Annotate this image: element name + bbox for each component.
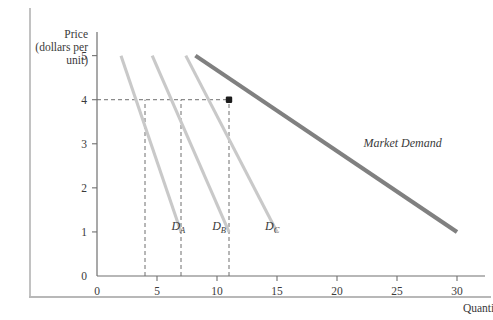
y-tick-label-4: 4 <box>81 94 87 106</box>
y-tick-label-5: 5 <box>81 50 87 62</box>
plot-area: 012345051015202530DADBDCMarket DemandQua… <box>0 0 493 320</box>
curve-d-a <box>121 56 181 232</box>
x-tick-label-10: 10 <box>211 285 223 297</box>
curve-label-market-demand: Market Demand <box>362 136 442 150</box>
x-tick-label-15: 15 <box>271 285 283 297</box>
equilibrium-point <box>226 97 232 103</box>
y-tick-label-0: 0 <box>81 270 87 282</box>
x-tick-label-0: 0 <box>94 285 100 297</box>
y-tick-label-2: 2 <box>81 182 87 194</box>
x-axis-title: Quantity <box>463 302 493 315</box>
y-tick-label-3: 3 <box>81 138 87 150</box>
x-tick-label-20: 20 <box>331 285 343 297</box>
x-tick-label-5: 5 <box>154 285 160 297</box>
x-tick-label-25: 25 <box>391 285 403 297</box>
curve-label-d-c: DC <box>264 219 280 235</box>
x-tick-label-30: 30 <box>451 285 463 297</box>
demand-curve-figure: Price (dollars per unit) 012345051015202… <box>0 0 493 320</box>
curve-d-b <box>152 56 229 232</box>
curve-label-d-a: DA <box>170 219 186 235</box>
y-tick-label-1: 1 <box>81 226 87 238</box>
